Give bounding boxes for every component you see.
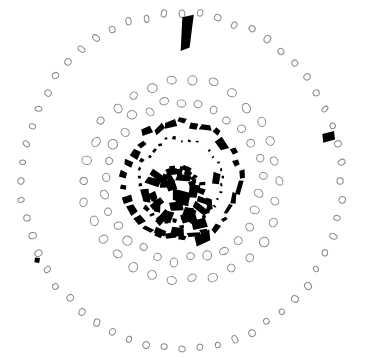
- stone-hole: [177, 99, 186, 107]
- stone-hole: [178, 346, 185, 353]
- stone-hole: [202, 250, 211, 260]
- stone-hole: [170, 258, 178, 267]
- stone-hole: [194, 100, 203, 108]
- site-plan-canvas: [0, 0, 365, 363]
- stone-hole: [144, 15, 149, 23]
- stone-hole: [35, 106, 42, 111]
- stone-hole: [102, 173, 110, 182]
- stone-hole: [167, 76, 177, 85]
- stone-hole: [215, 342, 220, 348]
- stone-hole: [256, 154, 264, 162]
- bluestone-upright: [199, 182, 206, 186]
- plan-background: [0, 0, 365, 363]
- stone-hole: [105, 208, 112, 216]
- stone-hole: [79, 177, 87, 185]
- stone-hole: [337, 178, 344, 185]
- stone-hole: [23, 214, 31, 221]
- stone-hole: [329, 123, 335, 130]
- stone-hole: [259, 172, 267, 179]
- stone-hole: [179, 10, 185, 18]
- station-stone-southwest: [34, 257, 40, 263]
- stone-hole: [125, 17, 131, 25]
- stone-hole: [28, 232, 37, 239]
- stone-hole: [153, 253, 161, 261]
- stonehenge-site-plan: [0, 0, 365, 363]
- stone-hole: [263, 318, 270, 325]
- stone-hole: [161, 344, 167, 350]
- stone-hole: [147, 83, 157, 93]
- bluestone: [221, 176, 224, 179]
- stone-hole: [333, 215, 340, 221]
- stone-hole: [322, 250, 328, 257]
- stone-hole: [20, 160, 26, 165]
- stone-hole: [313, 89, 320, 96]
